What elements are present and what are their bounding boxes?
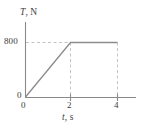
x-tick-label-4: 4 [114,101,119,110]
x-tick-label-2: 2 [67,101,72,110]
y-tick-label-800: 800 [4,37,18,46]
y-axis-label: T, N [20,8,37,18]
x-tick-label-0: 0 [21,101,26,110]
y-axis-label-unit: N [30,7,37,17]
x-axis-label-unit: s [70,112,74,122]
x-axis-label: t, s [62,113,74,123]
y-tick-label-0: 0 [17,91,22,100]
chart-figure: T, N t, s 800 0 0 2 4 [0,0,144,127]
series-line-T [26,43,118,98]
